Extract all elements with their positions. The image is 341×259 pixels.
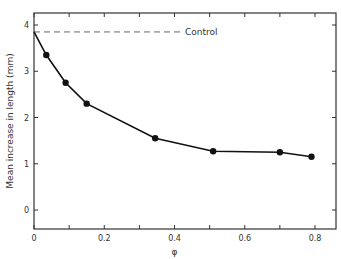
y-axis-label: Mean increase in length (mm) <box>5 53 15 188</box>
data-point-marker <box>83 100 89 106</box>
x-tick-label: 0.2 <box>98 234 111 243</box>
plot-frame <box>34 13 336 229</box>
line-chart: 00.20.40.60.801234ControlφMean increase … <box>0 0 341 259</box>
y-tick-label: 2 <box>24 114 29 123</box>
y-tick-label: 3 <box>24 67 29 76</box>
data-point-marker <box>62 80 68 86</box>
x-tick-label: 0.8 <box>309 234 322 243</box>
data-point-marker <box>277 149 283 155</box>
x-axis-label: φ <box>172 247 178 257</box>
data-point-marker <box>308 154 314 160</box>
data-line <box>34 32 311 157</box>
x-tick-label: 0 <box>31 234 36 243</box>
control-label: Control <box>185 27 218 37</box>
y-tick-label: 0 <box>24 206 29 215</box>
data-point-marker <box>152 135 158 141</box>
data-point-marker <box>210 148 216 154</box>
x-tick-label: 0.6 <box>238 234 251 243</box>
x-tick-label: 0.4 <box>168 234 181 243</box>
y-tick-label: 1 <box>24 160 29 169</box>
data-point-marker <box>43 52 49 58</box>
y-tick-label: 4 <box>24 21 29 30</box>
